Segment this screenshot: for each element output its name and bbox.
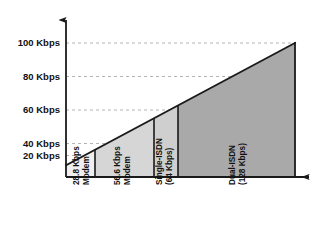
x-label-dual-isdn-line1: Dual-ISDN: [228, 145, 237, 185]
x-label-56-6-line1: 56.6 Kbps: [113, 146, 122, 185]
chart-canvas: 100 Kbps 80 Kbps 60 Kbps 40 Kbps 20 Kbps…: [0, 0, 328, 250]
y-tick-label-60: 60 Kbps: [23, 104, 60, 115]
y-tick-label-80: 80 Kbps: [23, 71, 60, 82]
bandwidth-ramp-chart: 100 Kbps 80 Kbps 60 Kbps 40 Kbps 20 Kbps…: [0, 0, 328, 250]
ramp-bands: [66, 43, 295, 177]
x-label-28-8-line2: Modem: [82, 156, 91, 185]
x-label-dual-isdn: Dual-ISDN (128 Kbps): [228, 143, 247, 185]
x-label-single-isdn-line1: Single-ISDN: [155, 138, 164, 185]
y-tick-label-20: 20 Kbps: [23, 150, 60, 161]
y-tick-label-100: 100 Kbps: [18, 37, 60, 48]
x-label-28-8-kbps-modem: 28.8 Kbps Modem: [72, 146, 91, 185]
y-tick-label-40: 40 Kbps: [23, 138, 60, 149]
x-label-single-isdn-line2: (64 Kbps): [165, 147, 174, 185]
x-label-28-8-line1: 28.8 Kbps: [72, 146, 81, 185]
y-axis-tick-labels: 100 Kbps 80 Kbps 60 Kbps 40 Kbps 20 Kbps: [18, 37, 60, 161]
x-label-56-6-line2: Modem: [123, 156, 132, 185]
x-label-dual-isdn-line2: (128 Kbps): [238, 143, 247, 185]
